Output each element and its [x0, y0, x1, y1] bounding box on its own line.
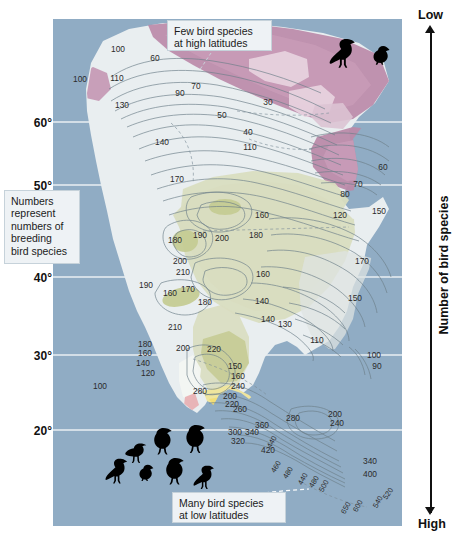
legend-note-line5: bird species: [11, 245, 73, 257]
callout-many-species-line2: at low latitudes: [179, 509, 279, 521]
contour-label: 80: [340, 189, 350, 199]
contour-label: 30: [263, 97, 273, 107]
contour-label: 140: [261, 314, 275, 324]
contour-label: 180: [168, 235, 182, 245]
latitude-tick-30: 30°: [6, 349, 52, 363]
contour-label: 90: [175, 88, 185, 98]
contour-label: 240: [231, 381, 245, 391]
contour-label: 200: [176, 343, 190, 353]
contour-label: 280: [286, 413, 300, 423]
contour-label: 100: [73, 74, 87, 84]
contour-label: 190: [193, 230, 207, 240]
contour-label: 140: [255, 296, 269, 306]
contour-label: 70: [353, 179, 363, 189]
contour-label: 210: [168, 322, 182, 332]
callout-few-species-line1: Few bird species: [174, 25, 265, 37]
callout-many-species: Many bird species at low latitudes: [172, 492, 286, 523]
contour-label: 170: [181, 284, 195, 294]
contour-label: 50: [217, 110, 227, 120]
arrow-down-icon: [425, 507, 435, 515]
contour-label: 240: [330, 418, 344, 428]
contour-label: 160: [163, 288, 177, 298]
contour-label: 160: [231, 371, 245, 381]
richness-axis-high-label: High: [418, 517, 446, 531]
contour-label: 100: [367, 350, 381, 360]
contour-label: 120: [333, 210, 347, 220]
contour-label: 280: [193, 386, 207, 396]
contour-label: 200: [173, 256, 187, 266]
contour-label: 120: [141, 368, 155, 378]
contour-label: 140: [155, 137, 169, 147]
contour-label: 340: [245, 427, 259, 437]
figure-root: Latitude 60° 50° 40° 30° 20°: [0, 0, 468, 543]
contour-label: 190: [139, 280, 153, 290]
legend-note-line2: represent: [11, 207, 73, 219]
callout-few-species-line2: at high latitudes: [174, 37, 265, 49]
contour-label: 340: [363, 456, 377, 466]
richness-axis-line: [430, 31, 432, 513]
contour-label: 320: [231, 436, 245, 446]
contour-label: 90: [372, 361, 382, 371]
legend-note-line3: numbers of: [11, 220, 73, 232]
callout-few-species: Few bird species at high latitudes: [167, 20, 272, 51]
contour-label: 420: [261, 445, 275, 455]
contour-label: 160: [138, 348, 152, 358]
latitude-tick-60: 60°: [6, 116, 52, 130]
contour-label: 60: [378, 162, 388, 172]
contour-label: 110: [243, 142, 257, 152]
contour-label: 200: [215, 233, 229, 243]
latitude-tick-40: 40°: [6, 271, 52, 285]
contour-label: 100: [111, 44, 125, 54]
contour-label: 400: [363, 469, 377, 479]
legend-note-line1: Numbers: [11, 195, 73, 207]
contour-label: 100: [93, 381, 107, 391]
callout-many-species-line1: Many bird species: [179, 497, 279, 509]
latitude-tick-group: 60° 50° 40° 30° 20°: [0, 0, 52, 543]
contour-label: 160: [256, 269, 270, 279]
species-richness-map: 1006010011090701303050401401106070801701…: [53, 19, 402, 526]
callout-legend-note: Numbers represent numbers of breeding bi…: [4, 190, 80, 264]
contour-label: 160: [255, 210, 269, 220]
contour-label: 220: [207, 344, 221, 354]
contour-label: 150: [228, 361, 242, 371]
contour-label: 40: [243, 127, 253, 137]
contour-label: 170: [170, 174, 184, 184]
contour-label: 170: [355, 256, 369, 266]
contour-label: 180: [249, 230, 263, 240]
contour-label: 140: [136, 358, 150, 368]
latitude-tick-20: 20°: [6, 424, 52, 438]
contour-label: 150: [372, 206, 386, 216]
richness-axis-title: Number of bird species: [437, 164, 451, 366]
contour-label: 150: [348, 293, 362, 303]
contour-label: 260: [233, 404, 247, 414]
contour-label: 60: [150, 53, 160, 63]
richness-axis: Low High Number of bird species: [404, 19, 468, 526]
contour-label: 180: [198, 297, 212, 307]
contour-label: 210: [176, 267, 190, 277]
contour-label: 110: [310, 335, 324, 345]
contour-label: 70: [191, 81, 201, 91]
contour-label: 110: [110, 73, 124, 83]
contour-label: 130: [115, 100, 129, 110]
legend-note-line4: breeding: [11, 232, 73, 244]
richness-axis-low-label: Low: [418, 8, 443, 22]
contour-label: 130: [278, 319, 292, 329]
